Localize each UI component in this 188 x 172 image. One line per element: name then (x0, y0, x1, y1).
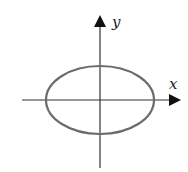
y-axis-label: y (111, 13, 121, 31)
x-axis-label: x (169, 75, 178, 93)
x-axis-arrow-icon (169, 94, 181, 106)
coordinate-diagram: y x (0, 0, 188, 172)
y-axis-arrow-icon (94, 15, 106, 27)
